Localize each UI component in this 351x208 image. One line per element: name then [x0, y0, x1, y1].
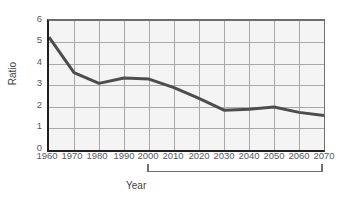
projected-bracket-svg: [0, 162, 351, 182]
data-line-ratio: [49, 37, 324, 115]
x-tick-label-2050: 2050: [263, 150, 284, 161]
x-tick-label-1980: 1980: [86, 150, 107, 161]
horizontal-gridlines: [49, 43, 324, 129]
chart-figure: 6 5 4 3 2 1 0 Ratio: [0, 0, 351, 208]
x-tick-label-2020: 2020: [188, 150, 209, 161]
x-axis-title: Year: [126, 180, 146, 191]
x-tick-label-1970: 1970: [61, 150, 82, 161]
plot-svg: [49, 21, 324, 150]
x-tick-label-2060: 2060: [288, 150, 309, 161]
projected-range-bracket: Projected: [0, 162, 351, 182]
plot-area: [47, 19, 325, 152]
x-tick-label-1960: 1960: [36, 150, 57, 161]
x-tick-label-2000: 2000: [137, 150, 158, 161]
x-tick-label-2070: 2070: [313, 150, 334, 161]
x-tick-label-1990: 1990: [113, 150, 134, 161]
x-tick-label-2030: 2030: [213, 150, 234, 161]
y-axis-title: Ratio: [7, 44, 18, 104]
x-tick-label-2040: 2040: [238, 150, 259, 161]
x-tick-label-2010: 2010: [162, 150, 183, 161]
y-tick-label-1: 1: [2, 121, 42, 131]
y-tick-label-6: 6: [2, 14, 42, 24]
